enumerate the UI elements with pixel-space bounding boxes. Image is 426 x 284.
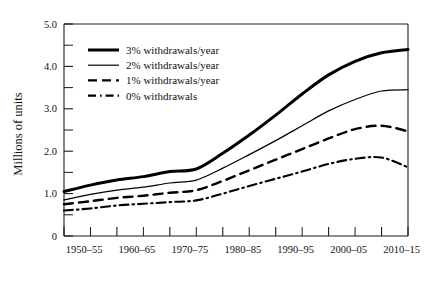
series-line [64, 49, 408, 191]
y-tick-label: 5.0 [44, 19, 57, 30]
x-axis-tick-labels: 1950–551960–651970–751980–851990–952000–… [66, 244, 420, 255]
y-tick-label: 2.0 [44, 146, 57, 157]
series-line [64, 157, 408, 211]
y-axis-tick-labels: 01.02.03.04.05.0 [44, 19, 57, 242]
data-series-group [64, 49, 408, 210]
legend-label: 2% withdrawals/year [126, 59, 219, 71]
y-axis-label: Millions of units [11, 92, 25, 175]
line-chart: 01.02.03.04.05.0 1950–551960–651970–7519… [0, 0, 426, 284]
series-line [64, 126, 408, 204]
legend-label: 3% withdrawals/year [126, 44, 219, 56]
y-tick-label: 1.0 [44, 188, 57, 199]
x-tick-label: 1960–65 [119, 244, 156, 255]
figure-container: 01.02.03.04.05.0 1950–551960–651970–7519… [0, 0, 426, 284]
caption-fragment [0, 278, 426, 284]
legend-label: 1% withdrawals/year [126, 74, 219, 86]
x-tick-label: 2010–15 [383, 244, 420, 255]
x-tick-label: 1980–85 [224, 244, 261, 255]
x-axis-ticks [64, 227, 408, 236]
x-tick-label: 1970–75 [171, 244, 208, 255]
chart-legend: 3% withdrawals/year2% withdrawals/year1%… [88, 44, 219, 102]
legend-label: 0% withdrawals [126, 90, 197, 102]
x-tick-label: 2000–05 [330, 244, 367, 255]
y-tick-label: 3.0 [44, 103, 57, 114]
y-tick-label: 0 [52, 231, 57, 242]
y-tick-label: 4.0 [44, 61, 57, 72]
x-tick-label: 1950–55 [66, 244, 103, 255]
x-tick-label: 1990–95 [277, 244, 314, 255]
